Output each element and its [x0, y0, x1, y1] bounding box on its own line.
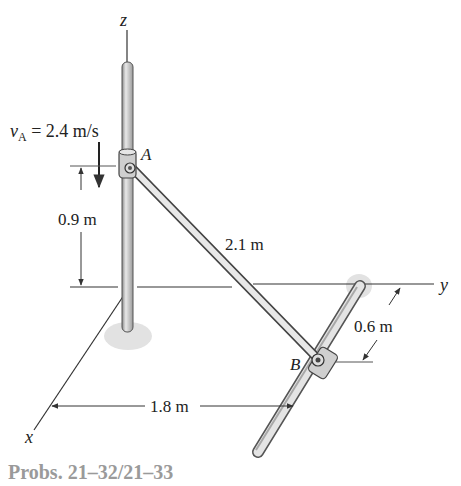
x-axis-label: x — [24, 427, 33, 447]
collar-A — [119, 149, 136, 178]
figure-caption: Probs. 21–32/21–33 — [8, 461, 173, 483]
dim-0.6-line-bottom — [363, 340, 377, 360]
velocity-label: vA = 2.4 m/s — [10, 121, 99, 144]
vertical-rod — [122, 62, 133, 332]
dim-0.6-line-top — [389, 288, 400, 305]
y-axis-label: y — [438, 275, 448, 295]
point-B-label: B — [290, 355, 301, 374]
connecting-rod-AB — [132, 168, 316, 357]
point-A-label: A — [140, 145, 152, 164]
dim-0.9-label: 0.9 m — [58, 210, 97, 229]
z-axis-label: z — [119, 10, 127, 30]
dim-1.8-label: 1.8 m — [150, 397, 189, 416]
figure-diagram: y x z A B vA = 2.4 m/s 0.9 — [0, 0, 461, 486]
dim-2.1-label: 2.1 m — [225, 235, 264, 254]
x-axis-line — [34, 295, 124, 430]
dim-0.6-label: 0.6 m — [354, 317, 393, 336]
